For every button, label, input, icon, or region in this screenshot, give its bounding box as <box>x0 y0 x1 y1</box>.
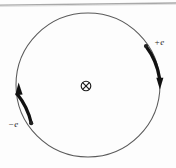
positive-charge-marker <box>144 44 148 48</box>
negative-charge-marker <box>29 121 33 125</box>
positive-charge-label: +e <box>154 38 164 47</box>
physics-figure: +e −e <box>0 0 176 168</box>
negative-charge-label: −e <box>8 120 18 129</box>
positive-charge-arrowhead <box>156 78 163 90</box>
positive-charge-arc <box>146 46 160 78</box>
figure-canvas <box>0 0 176 168</box>
positive-charge-arc-arrow <box>144 44 164 90</box>
magnetic-field-into-page-icon <box>81 81 91 91</box>
orbit-circle <box>16 13 160 157</box>
